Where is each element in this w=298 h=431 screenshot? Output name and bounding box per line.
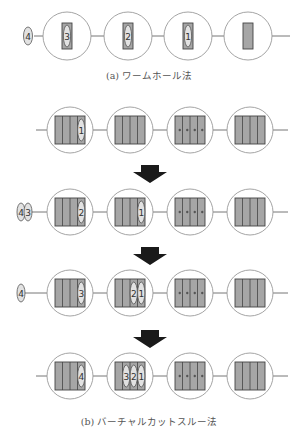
packet-label: 4 [18,289,24,299]
flit-dot [179,375,181,377]
down-arrow-icon [133,330,167,348]
down-arrow-icon [133,247,167,265]
flit-dot [201,375,203,377]
flit-dot [194,211,196,213]
flit-dot [179,129,181,131]
flit-dot [194,375,196,377]
caption-wormhole: (a) ワームホール法 [0,68,298,82]
packet-label: 1 [185,32,191,42]
flit-dot [179,211,181,213]
packet-label: 4 [25,32,31,42]
packet-label: 1 [138,372,144,382]
packet-label: 3 [64,32,70,42]
packet-label: 2 [125,32,131,42]
packet-label: 1 [138,208,144,218]
network-diagram: 32141214332144321 [0,0,298,431]
packet-label: 4 [18,208,24,218]
packet-label: 3 [78,289,84,299]
packet-label: 3 [25,208,31,218]
flit-dot [186,292,188,294]
flit-dot [201,211,203,213]
flit-dot [194,129,196,131]
packet-label: 1 [78,126,84,136]
down-arrow-icon [133,165,167,183]
flit-dot [201,129,203,131]
flit-dot [194,292,196,294]
flit-dot [186,211,188,213]
flit-dot [186,375,188,377]
flit-dot [179,292,181,294]
flit-buffer [243,23,253,49]
packet-label: 2 [131,289,137,299]
caption-virtual-cut-through: (b) バーチャルカットスルー法 [0,414,298,428]
flit-dot [186,129,188,131]
packet-label: 3 [123,372,129,382]
packet-label: 1 [138,289,144,299]
packet-label: 2 [131,372,137,382]
packet-label: 4 [78,372,84,382]
flit-dot [201,292,203,294]
packet-label: 2 [78,208,84,218]
